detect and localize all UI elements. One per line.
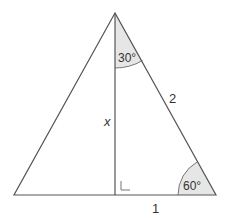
angle-60-label: 60° — [183, 179, 201, 193]
right-angle-marker — [121, 181, 130, 190]
base-half-label: 1 — [152, 201, 159, 216]
altitude-label: x — [103, 114, 111, 129]
hypotenuse-label: 2 — [169, 91, 176, 106]
triangle-diagram: 30° 60° 2 x 1 — [0, 0, 228, 220]
angle-30-label: 30° — [118, 51, 136, 65]
